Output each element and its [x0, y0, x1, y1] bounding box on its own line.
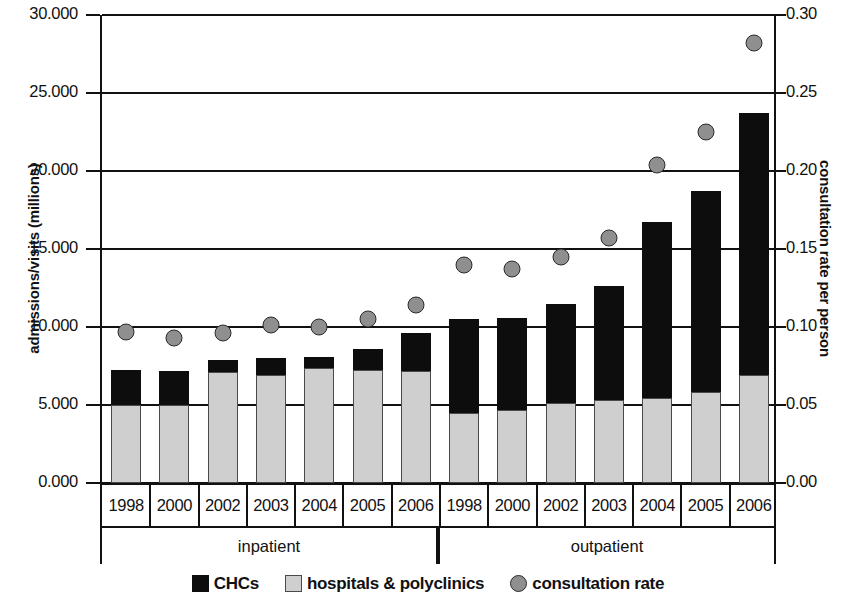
bar-segment-hospitals-polyclinics	[111, 405, 141, 483]
chart-legend: CHCs hospitals & polyclinics consultatio…	[0, 566, 856, 601]
x-axis-category-label: 2005	[343, 485, 391, 526]
bar-segment-hospitals-polyclinics	[739, 375, 769, 483]
category-divider	[439, 485, 441, 526]
y-tick-label-left: 30.000	[0, 4, 78, 23]
x-axis-category-label: 2003	[247, 485, 295, 526]
y-tick-label-left: 20.000	[0, 160, 78, 179]
x-axis-category-label: 2002	[199, 485, 247, 526]
consultation-rate-point	[263, 317, 280, 334]
bar-segment-hospitals-polyclinics	[159, 405, 189, 483]
bar-segment-chcs	[739, 113, 769, 375]
x-axis-group-label: outpatient	[438, 528, 776, 564]
bar-segment-chcs	[546, 304, 576, 404]
y-tick-label-left: 5.000	[0, 394, 78, 413]
y-tick-label-right: 0.15	[786, 238, 856, 257]
bar-segment-chcs	[497, 318, 527, 409]
bar-group	[208, 15, 238, 483]
consultation-rate-point	[166, 329, 183, 346]
y-tick-label-left: 25.000	[0, 82, 78, 101]
legend-item-hospitals-polyclinics: hospitals & polyclinics	[285, 574, 484, 594]
consultation-rate-point	[311, 319, 328, 336]
category-divider	[729, 485, 731, 526]
x-axis-category-label: 2004	[633, 485, 681, 526]
bar-segment-chcs	[353, 349, 383, 370]
bar-segment-chcs	[449, 319, 479, 413]
y-tick-label-right: 0.00	[786, 472, 856, 491]
tickmark	[86, 170, 100, 172]
y-tick-label-right: 0.10	[786, 316, 856, 335]
tickmark	[772, 92, 786, 94]
legend-label-chcs: CHCs	[214, 574, 259, 594]
category-divider	[342, 485, 344, 526]
category-divider	[680, 485, 682, 526]
legend-label-hospitals-polyclinics: hospitals & polyclinics	[307, 574, 484, 594]
legend-item-consultation-rate: consultation rate	[510, 574, 664, 594]
gray-square-icon	[285, 575, 302, 592]
consultation-rate-point	[745, 35, 762, 52]
legend-item-chcs: CHCs	[192, 574, 259, 594]
x-axis-category-label: 1998	[102, 485, 150, 526]
tickmark	[86, 248, 100, 250]
consultation-rate-point	[456, 256, 473, 273]
x-axis-category-label: 2005	[681, 485, 729, 526]
x-axis-category-label: 2002	[537, 485, 585, 526]
x-axis-category-label: 2006	[392, 485, 440, 526]
consultation-rate-point	[214, 325, 231, 342]
bar-group	[739, 15, 769, 483]
bar-group	[691, 15, 721, 483]
bar-segment-chcs	[304, 357, 334, 369]
bar-group	[353, 15, 383, 483]
tickmark	[772, 326, 786, 328]
y-tick-label-left: 10.000	[0, 316, 78, 335]
bar-group	[594, 15, 624, 483]
category-divider	[246, 485, 248, 526]
category-divider	[487, 485, 489, 526]
consultation-rate-point	[552, 248, 569, 265]
category-divider	[584, 485, 586, 526]
bar-segment-hospitals-polyclinics	[642, 398, 672, 483]
bar-group	[159, 15, 189, 483]
tickmark	[86, 92, 100, 94]
tickmark	[772, 14, 786, 16]
black-square-icon	[192, 575, 209, 592]
category-divider	[391, 485, 393, 526]
consultation-rate-point	[697, 124, 714, 141]
category-divider	[536, 485, 538, 526]
bar-segment-hospitals-polyclinics	[449, 413, 479, 483]
tickmark	[86, 14, 100, 16]
chart-page: admissions/visits (millions) consultatio…	[0, 0, 856, 601]
category-divider	[198, 485, 200, 526]
category-divider	[294, 485, 296, 526]
consultation-rate-point	[504, 261, 521, 278]
plot-area	[100, 15, 776, 483]
bar-segment-chcs	[401, 333, 431, 371]
consultation-rate-point	[359, 311, 376, 328]
bar-segment-hospitals-polyclinics	[594, 400, 624, 483]
bar-group	[642, 15, 672, 483]
x-axis-group-band: inpatientoutpatient	[100, 528, 776, 564]
bar-segment-chcs	[208, 360, 238, 372]
bar-segment-hospitals-polyclinics	[304, 368, 334, 483]
category-divider	[149, 485, 151, 526]
bar-group	[497, 15, 527, 483]
consultation-rate-point	[601, 230, 618, 247]
bar-group	[449, 15, 479, 483]
tickmark	[772, 248, 786, 250]
x-axis-category-label: 2004	[295, 485, 343, 526]
tickmark	[772, 170, 786, 172]
y-tick-label-right: 0.30	[786, 4, 856, 23]
tickmark	[86, 326, 100, 328]
y-tick-label-right: 0.05	[786, 394, 856, 413]
bar-segment-chcs	[111, 370, 141, 405]
bar-segment-hospitals-polyclinics	[256, 375, 286, 483]
bar-segment-hospitals-polyclinics	[497, 410, 527, 483]
bar-segment-chcs	[159, 371, 189, 405]
bar-segment-hospitals-polyclinics	[546, 403, 576, 483]
bar-series-layer	[102, 15, 774, 483]
bar-segment-chcs	[642, 222, 672, 398]
bar-segment-hospitals-polyclinics	[208, 372, 238, 483]
x-axis-category-band: 1998200020022003200420052006199820002002…	[100, 483, 776, 528]
consultation-rate-point	[118, 323, 135, 340]
x-axis-category-label: 1998	[440, 485, 488, 526]
bar-segment-chcs	[691, 191, 721, 391]
